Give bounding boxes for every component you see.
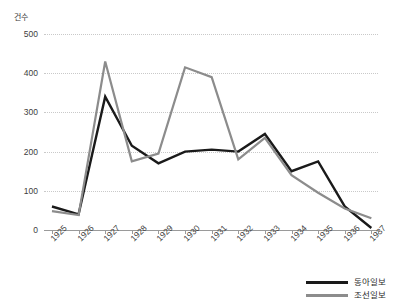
legend-color-swatch bbox=[306, 294, 348, 297]
x-axis-tick-labels: 1925192619271928192919301931193219331934… bbox=[0, 0, 402, 308]
legend-label: 동아일보 bbox=[354, 276, 386, 288]
x-axis-tick-label: 1931 bbox=[209, 224, 229, 244]
legend-label: 조선일보 bbox=[354, 289, 386, 301]
legend-item: 동아일보 bbox=[306, 276, 398, 289]
chart-legend: 동아일보조선일보 bbox=[306, 276, 398, 302]
x-axis-tick-label: 1936 bbox=[342, 224, 362, 244]
x-axis-tick-label: 1935 bbox=[315, 224, 335, 244]
legend-color-swatch bbox=[306, 281, 348, 284]
legend-item: 조선일보 bbox=[306, 289, 398, 302]
x-axis-tick-label: 1929 bbox=[155, 224, 175, 244]
x-axis-tick-label: 1926 bbox=[76, 224, 96, 244]
x-axis-tick-label: 1937 bbox=[368, 224, 388, 244]
x-axis-tick-label: 1925 bbox=[49, 224, 69, 244]
line-chart: 건수 5004003002001000 19251926192719281929… bbox=[0, 0, 402, 308]
x-axis-tick-label: 1934 bbox=[289, 224, 309, 244]
x-axis-tick-label: 1933 bbox=[262, 224, 282, 244]
x-axis-tick-label: 1930 bbox=[182, 224, 202, 244]
x-axis-tick-label: 1927 bbox=[102, 224, 122, 244]
x-axis-tick-label: 1932 bbox=[235, 224, 255, 244]
x-axis-tick-label: 1928 bbox=[129, 224, 149, 244]
